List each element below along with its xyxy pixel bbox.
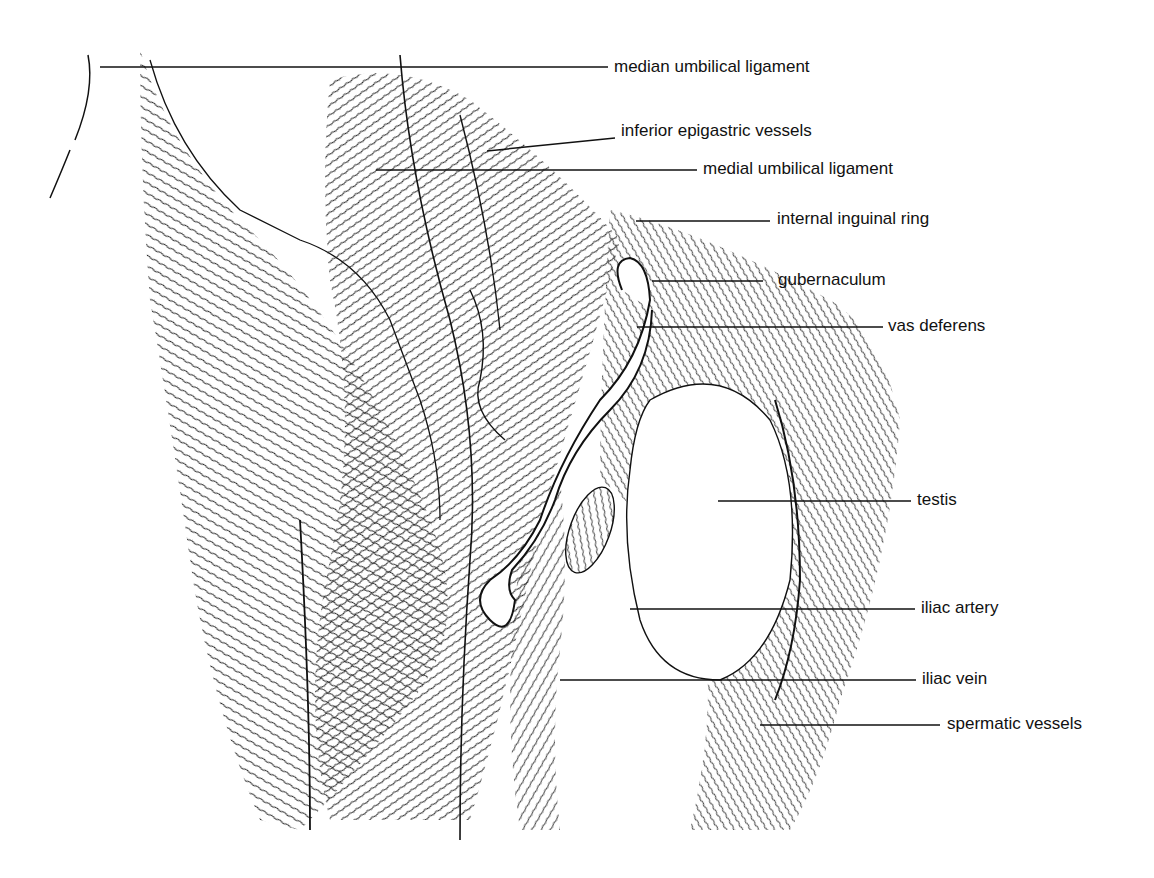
anatomical-illustration bbox=[0, 0, 1154, 878]
internal-ring-opening bbox=[556, 481, 624, 579]
label-iliac-artery: iliac artery bbox=[921, 598, 998, 618]
label-internal-inguinal-ring: internal inguinal ring bbox=[777, 209, 929, 229]
abdominal-wall-edge bbox=[50, 55, 90, 198]
label-testis: testis bbox=[917, 490, 957, 510]
label-spermatic-vessels: spermatic vessels bbox=[947, 714, 1082, 734]
label-vas-deferens: vas deferens bbox=[888, 316, 985, 336]
label-gubernaculum: gubernaculum bbox=[778, 270, 886, 290]
label-median-umbilical-ligament: median umbilical ligament bbox=[614, 57, 810, 77]
label-inferior-epigastric-vessels: inferior epigastric vessels bbox=[621, 121, 812, 141]
label-iliac-vein: iliac vein bbox=[922, 669, 987, 689]
label-medial-umbilical-ligament: medial umbilical ligament bbox=[703, 159, 893, 179]
